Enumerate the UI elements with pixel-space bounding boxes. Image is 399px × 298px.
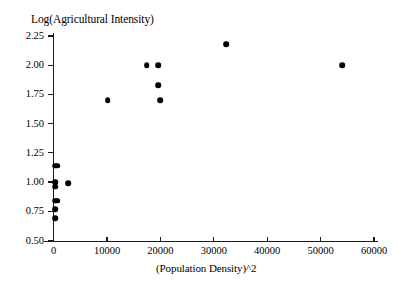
x-axis-tick-label: 20000 <box>147 245 173 257</box>
x-axis-line <box>44 241 378 242</box>
x-axis-tick <box>213 237 214 242</box>
x-axis-tick-label: 30000 <box>201 245 227 257</box>
data-point <box>55 198 61 204</box>
y-axis-tick-label: 2.25 <box>0 30 44 41</box>
plot-title: Log(Agricultural Intensity) <box>31 13 154 26</box>
y-axis-tick-label: 2.00 <box>0 59 44 70</box>
data-point <box>55 163 61 169</box>
data-point <box>158 97 164 103</box>
x-axis-tick <box>267 237 268 242</box>
x-axis-tick-label: 40000 <box>254 245 280 257</box>
x-axis-tick <box>53 237 54 242</box>
x-axis-label: (Population Density)^2 <box>156 262 256 275</box>
data-point <box>52 216 58 222</box>
data-point <box>52 206 58 212</box>
x-axis-tick-label: 0 <box>51 245 56 257</box>
scatter-plot: Log(Agricultural Intensity) 2.252.001.75… <box>0 0 399 298</box>
data-point <box>105 97 111 103</box>
data-point <box>223 41 229 47</box>
y-axis-tick <box>48 152 54 153</box>
x-axis-tick-label: 60000 <box>361 245 387 257</box>
data-point <box>53 184 59 190</box>
data-point <box>156 62 162 68</box>
y-axis-tick-label: 1.50 <box>0 118 44 129</box>
y-axis-tick-label: 0.75 <box>0 205 44 216</box>
x-axis-tick <box>373 237 374 242</box>
y-axis-tick <box>48 65 54 66</box>
x-axis-tick <box>160 237 161 242</box>
y-axis-tick-label: 1.00 <box>0 176 44 187</box>
y-axis-tick <box>48 35 54 36</box>
data-point <box>156 82 162 88</box>
y-axis-tick-label: 1.75 <box>0 88 44 99</box>
data-point <box>144 62 150 68</box>
data-point <box>65 180 71 186</box>
x-axis-tick <box>106 237 107 242</box>
data-point <box>339 62 345 68</box>
y-axis-tick-label: 0.50 <box>0 235 44 246</box>
y-axis-tick-label: 1.25 <box>0 147 44 158</box>
x-axis-tick <box>320 237 321 242</box>
x-axis-tick-label: 50000 <box>307 245 333 257</box>
x-axis-tick-label: 10000 <box>94 245 120 257</box>
y-axis-tick <box>48 123 54 124</box>
y-axis-tick <box>48 94 54 95</box>
